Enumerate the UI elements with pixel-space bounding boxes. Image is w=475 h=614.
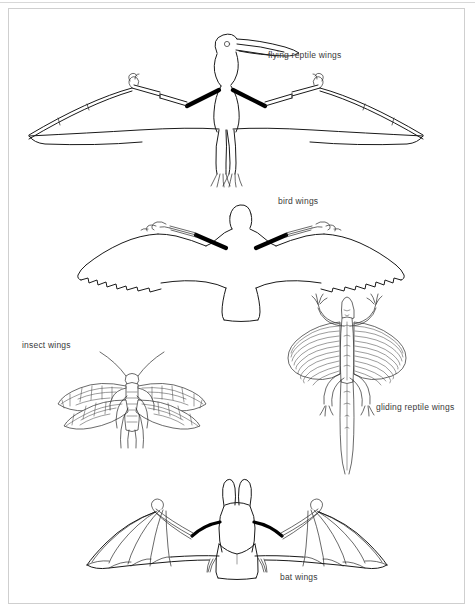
insect-drawing [52,348,212,453]
figure-insect [52,348,212,453]
label-bat-wings: bat wings [280,572,318,582]
label-bird-wings: bird wings [278,196,318,206]
page-top-rule [0,2,475,3]
figure-flying-reptile [14,18,434,188]
diagram-page: flying reptile wings [0,0,475,614]
draco-lizard-drawing [282,288,412,478]
figure-bat [52,478,422,578]
pterosaur-drawing [14,18,434,188]
label-flying-reptile-wings: flying reptile wings [268,50,341,60]
bat-drawing [52,478,422,578]
label-insect-wings: insect wings [22,340,71,350]
figure-gliding-reptile [282,288,412,478]
label-gliding-reptile-wings: gliding reptile wings [376,402,454,412]
